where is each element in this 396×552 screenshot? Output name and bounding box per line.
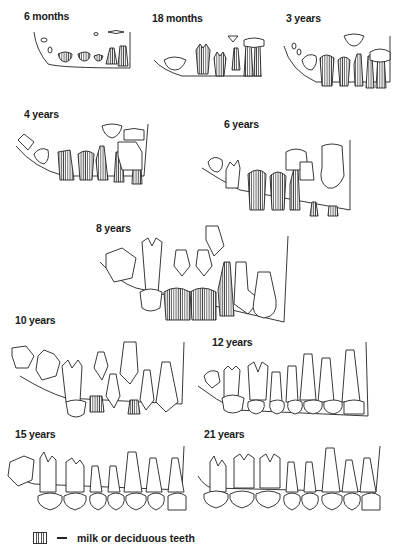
jaw-diagram-15-years	[4, 446, 190, 518]
panel-label-18-months: 18 months	[152, 12, 203, 24]
jaw-diagram-12-years	[196, 340, 371, 420]
jaw-diagram-21-years	[196, 446, 386, 518]
legend-dash	[57, 537, 67, 539]
jaw-diagram-6-months	[30, 28, 135, 76]
jaw-diagram-8-years	[98, 222, 298, 332]
jaw-diagram-18-months	[152, 30, 264, 86]
legend-text: milk or deciduous teeth	[77, 532, 195, 544]
panel-label-3-years: 3 years	[286, 12, 321, 24]
panel-label-6-years: 6 years	[224, 118, 259, 130]
jaw-diagram-10-years	[6, 340, 186, 430]
panel-label-10-years: 10 years	[15, 314, 55, 326]
panel-label-4-years: 4 years	[24, 108, 59, 120]
panel-label-6-months: 6 months	[24, 10, 69, 22]
panel-label-21-years: 21 years	[204, 428, 244, 440]
legend: milk or deciduous teeth	[33, 532, 195, 544]
jaw-diagram-4-years	[14, 120, 154, 200]
panel-label-15-years: 15 years	[15, 428, 55, 440]
deciduous-hatch-swatch-icon	[33, 532, 47, 544]
jaw-diagram-6-years	[200, 140, 360, 220]
jaw-diagram-3-years	[282, 30, 392, 100]
